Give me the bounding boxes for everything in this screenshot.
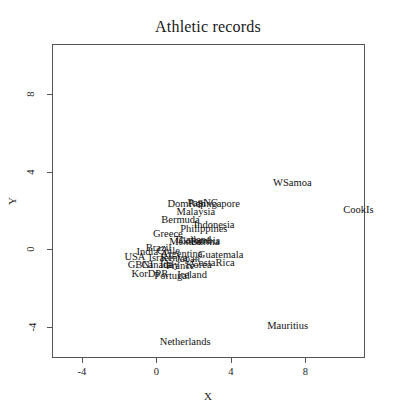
y-axis-tick-label: 4 [25,169,36,174]
y-axis-title: Y [6,197,18,205]
x-axis-tick-label: 4 [228,366,233,377]
data-point-label: Mauritius [267,321,308,332]
page-title: Athletic records [0,18,416,36]
data-point-label: CookIs [343,204,373,215]
y-axis-tick [47,172,52,173]
x-axis-tick [82,358,83,363]
x-axis-tick-label: 8 [303,366,308,377]
scatter-plot-figure: Athletic records WSamoaCookIsMauritiusNe… [0,0,416,419]
y-axis-tick-label: -4 [27,323,38,332]
x-axis-tick [305,358,306,363]
y-axis-tick [47,94,52,95]
y-axis-tick [47,249,52,250]
data-point-label: Burma [191,237,220,248]
x-axis-tick-label: 0 [154,366,159,377]
x-axis-tick [156,358,157,363]
x-axis-tick-label: -4 [77,366,86,377]
y-axis-tick-label: 8 [25,92,36,97]
y-axis-tick-label: 0 [25,247,36,252]
x-axis-tick [231,358,232,363]
data-point-layer: WSamoaCookIsMauritiusNetherlandsDomRepPa… [52,44,365,358]
y-axis-tick [47,327,52,328]
data-point-label: Ireland [177,269,207,280]
data-point-label: Netherlands [160,336,211,347]
x-axis-title: X [0,390,416,402]
data-point-label: WSamoa [273,177,312,188]
data-point-label: Philippines [180,224,227,235]
